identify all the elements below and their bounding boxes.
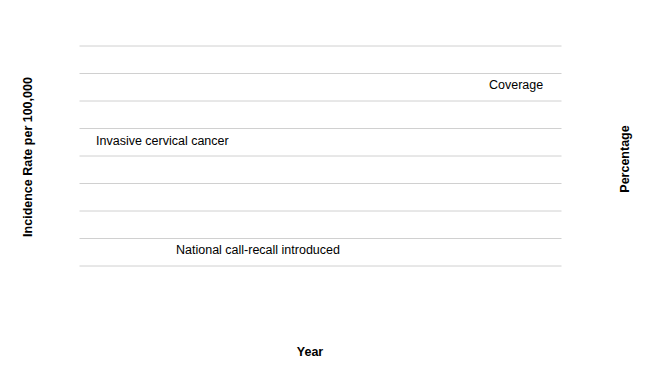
plot-area (0, 0, 649, 372)
chart-figure: Incidence Rate per 100,000 Percentage Ye… (0, 0, 649, 372)
call-recall-annotation-text: National call-recall introduced (176, 243, 340, 257)
incidence-series-label: Invasive cervical cancer (96, 134, 229, 148)
coverage-series-label: Coverage (489, 78, 543, 92)
